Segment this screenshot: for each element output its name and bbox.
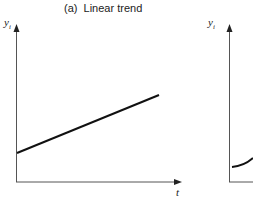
panel-a-trend-line xyxy=(17,95,159,153)
panel-a-axes xyxy=(14,24,183,185)
y-arrow-icon xyxy=(227,24,233,32)
panel-b-trend-curve xyxy=(232,158,253,167)
x-arrow-icon xyxy=(174,179,182,185)
chart-canvas xyxy=(0,0,253,210)
y-arrow-icon xyxy=(14,24,20,32)
panel-b-axes xyxy=(227,24,254,182)
